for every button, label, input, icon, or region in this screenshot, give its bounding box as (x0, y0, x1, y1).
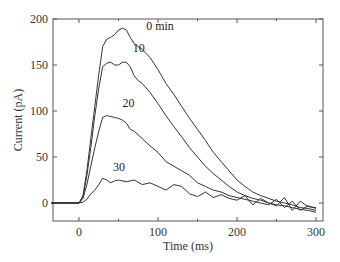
series-line-2 (51, 116, 316, 211)
x-axis-ticks: 0100200300 (76, 19, 325, 239)
x-axis-label: Time (ms) (163, 239, 213, 253)
y-axis-label: Current (pA) (11, 89, 25, 151)
line-chart: 0100200300 050100150200 0 min102030 Time… (0, 0, 340, 262)
x-tick-label: 100 (149, 225, 167, 239)
y-tick-label: 150 (30, 58, 48, 72)
x-tick-label: 200 (228, 225, 246, 239)
x-tick-label: 300 (307, 225, 325, 239)
series-label-0: 0 min (146, 19, 174, 33)
series-label-2: 20 (122, 96, 134, 110)
series-line-0 (51, 28, 316, 210)
y-tick-label: 0 (42, 196, 48, 210)
y-tick-label: 50 (36, 150, 48, 164)
series-label-3: 30 (113, 160, 125, 174)
series-label-1: 10 (133, 41, 145, 55)
y-tick-label: 200 (30, 12, 48, 26)
y-axis-ticks: 050100150200 (30, 12, 323, 210)
x-tick-label: 0 (76, 225, 82, 239)
y-tick-label: 100 (30, 104, 48, 118)
series-line-3 (51, 178, 316, 210)
series-labels: 0 min102030 (113, 19, 174, 174)
series-lines (51, 28, 316, 212)
